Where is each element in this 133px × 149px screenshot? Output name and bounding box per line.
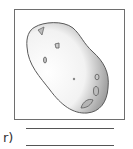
answer-line-2[interactable]	[26, 145, 114, 146]
potato-icon	[15, 10, 126, 121]
potato-image-frame	[14, 9, 125, 120]
item-label: r)	[3, 131, 13, 145]
answer-line-1[interactable]	[26, 128, 114, 129]
